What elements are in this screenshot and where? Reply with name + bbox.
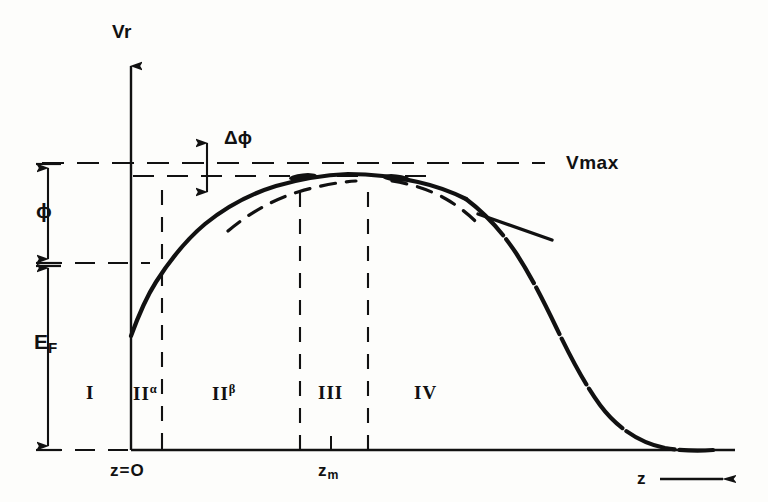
x-origin-label: z=O [110,461,145,481]
x-peak-sub: m [328,468,340,482]
phi-label: ϕ [36,199,52,223]
region-IIa-text: II [133,383,150,404]
reference-levels [42,163,545,450]
ef-label-sub: F [48,339,57,356]
region-label-III: III [318,382,343,404]
region-label-IV: IV [414,382,437,404]
x-peak-main: z [318,461,328,480]
figure-canvas [0,0,768,502]
x-peak-label: zm [318,461,339,482]
apex-dashed-arc-left [228,181,356,231]
region-label-I: I [86,382,94,404]
ef-label: EF [34,330,57,356]
vmax-label: Vmax [566,152,619,174]
region-IIb-text: II [212,383,229,404]
region-label-IIa: IIα [133,382,158,405]
region-IIa-sup: α [150,382,158,396]
potential-curve-tail [466,199,713,451]
region-IIb-sup: β [229,382,237,396]
inflection-tangent-line [478,214,552,240]
region-IV-text: IV [414,382,437,403]
x-axis-ticks [131,436,368,450]
y-axis-label: Vr [112,21,132,43]
region-boundaries [162,190,368,450]
region-label-IIb: IIβ [212,382,236,405]
potential-curve-main [131,174,466,336]
x-axis-label: z [637,469,647,489]
region-I-text: I [86,382,94,403]
region-III-text: III [318,382,343,403]
ef-label-main: E [34,330,48,353]
delta-phi-label: Δϕ [224,127,252,149]
figure-root: Vr ϕ EF Δϕ Vmax I IIα IIβ III IV z=O zm … [0,0,768,502]
ef-span-arrow [36,266,61,450]
